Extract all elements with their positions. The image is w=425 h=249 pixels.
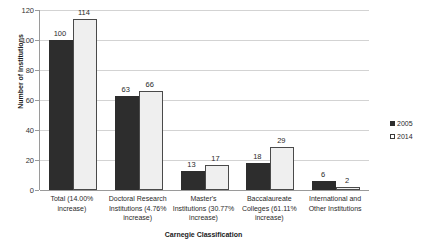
bar-value-label-2005-group-2: 13: [187, 160, 195, 169]
bar-value-label-2014-group-1: 66: [146, 80, 154, 89]
y-tick-label-100: 100: [6, 36, 34, 45]
x-category-label-3-line-3: increase): [230, 213, 308, 223]
bar-2014-group-2[interactable]: [205, 165, 229, 191]
y-tick-label-60: 60: [6, 96, 34, 105]
bar-2005-group-2[interactable]: [181, 171, 205, 191]
x-category-label-4-line-2: Other Institutions: [296, 204, 374, 214]
x-category-label-4: International andOther Institutions: [296, 194, 374, 213]
bar-2005-group-3[interactable]: [246, 163, 270, 190]
bar-2014-group-1[interactable]: [139, 91, 163, 190]
bar-value-label-2005-group-1: 63: [122, 85, 130, 94]
bar-chart: Number of Institutions 120100806040200 1…: [0, 0, 425, 249]
bar-2005-group-0[interactable]: [49, 40, 73, 190]
bar-2005-group-4[interactable]: [312, 181, 336, 190]
bar-2005-group-1[interactable]: [115, 96, 139, 191]
legend-label-2005: 2005: [397, 120, 413, 127]
legend: 2005 2014: [390, 117, 413, 143]
legend-label-2014: 2014: [397, 133, 413, 140]
bar-value-label-2014-group-4: 2: [345, 176, 349, 185]
legend-item-2014[interactable]: 2014: [390, 130, 413, 143]
y-tick-mark-0: [35, 190, 39, 191]
legend-item-2005[interactable]: 2005: [390, 117, 413, 130]
y-tick-label-0: 0: [6, 186, 34, 195]
bar-value-label-2005-group-0: 100: [54, 29, 67, 38]
bar-value-label-2014-group-0: 114: [78, 8, 90, 17]
bar-value-label-2014-group-3: 29: [277, 136, 285, 145]
y-tick-label-120: 120: [6, 6, 34, 15]
bar-2014-group-0[interactable]: [73, 19, 97, 190]
plot-area: [39, 10, 369, 190]
legend-swatch-open-square-icon: [390, 134, 395, 139]
bar-value-label-2014-group-2: 17: [211, 154, 219, 163]
legend-swatch-dark-square-icon: [390, 121, 395, 126]
bar-value-label-2005-group-4: 6: [321, 170, 325, 179]
bar-2014-group-3[interactable]: [270, 147, 294, 191]
y-tick-label-40: 40: [6, 126, 34, 135]
y-tick-label-20: 20: [6, 156, 34, 165]
x-category-label-4-line-1: International and: [296, 194, 374, 204]
y-tick-label-80: 80: [6, 66, 34, 75]
gridline-0: [40, 190, 369, 191]
bar-value-label-2005-group-3: 18: [253, 152, 261, 161]
x-axis-title: Carnegie Classification: [39, 231, 368, 238]
bar-2014-group-4[interactable]: [336, 187, 360, 190]
